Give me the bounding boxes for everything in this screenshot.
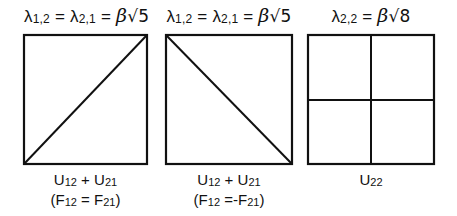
panel-3-caption-u: U22	[308, 171, 434, 188]
